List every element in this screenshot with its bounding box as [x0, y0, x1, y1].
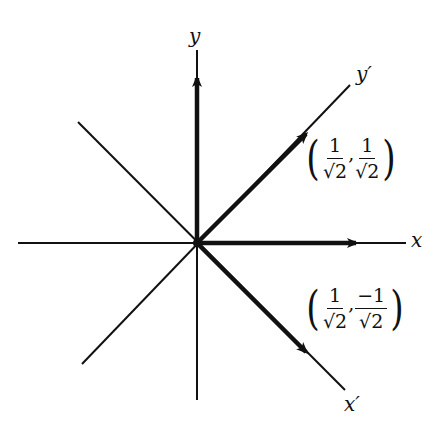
vector-x-prime — [197, 243, 306, 352]
open-paren: ( — [306, 285, 319, 331]
origin-dot — [193, 239, 201, 247]
open-paren: ( — [306, 135, 319, 181]
axes-svg — [0, 0, 442, 424]
vector-y-prime — [197, 134, 306, 243]
fraction-second: 1 √2 — [355, 135, 379, 182]
x-prime-axis-label: x′ — [344, 394, 360, 414]
rotated-axes-diagram: y x y′ x′ ( 1 √2 , 1 √2 ) ( 1 √2 , −1 √2… — [0, 0, 442, 424]
denominator: √2 — [359, 309, 383, 332]
numerator: −1 — [355, 285, 387, 309]
numerator: 1 — [327, 135, 343, 159]
y-prime-axis-label: y′ — [356, 64, 372, 84]
x-axis-label: x — [411, 230, 422, 250]
fraction-first: 1 √2 — [323, 285, 347, 332]
numerator: 1 — [359, 135, 375, 159]
fraction-second: −1 √2 — [355, 285, 387, 332]
comma: , — [348, 142, 354, 164]
y-axis-label: y — [189, 26, 200, 46]
coord-label-lower: ( 1 √2 , −1 √2 ) — [304, 285, 406, 332]
comma: , — [348, 292, 354, 314]
denominator: √2 — [355, 159, 379, 182]
fraction-first: 1 √2 — [323, 135, 347, 182]
denominator: √2 — [323, 159, 347, 182]
close-paren: ) — [383, 135, 396, 181]
coord-label-upper: ( 1 √2 , 1 √2 ) — [304, 135, 398, 182]
close-paren: ) — [390, 285, 403, 331]
denominator: √2 — [323, 309, 347, 332]
numerator: 1 — [327, 285, 343, 309]
